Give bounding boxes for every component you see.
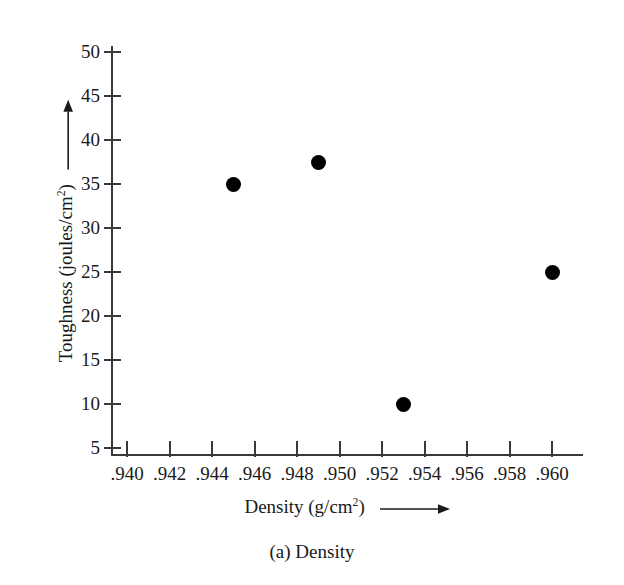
x-axis-tick [169, 441, 171, 457]
x-axis-tick [254, 441, 256, 457]
x-axis-tick [424, 441, 426, 457]
y-axis-line [111, 46, 113, 456]
y-axis-title-superscript: 2 [55, 190, 68, 196]
data-point [396, 397, 411, 412]
x-axis-title: Density (g/cm2) [112, 495, 582, 521]
y-axis-tick [104, 51, 121, 53]
x-axis-tick [126, 441, 128, 457]
x-axis-tick [296, 441, 298, 457]
x-axis-tick [339, 441, 341, 457]
arrow-right-icon [56, 99, 80, 169]
y-axis-tick [104, 95, 121, 97]
y-axis-tick [104, 403, 121, 405]
y-axis-tick [104, 447, 121, 449]
data-point [545, 265, 560, 280]
x-axis-tick [211, 441, 213, 457]
x-axis-tick [509, 441, 511, 457]
x-axis-title-suffix: ) [359, 496, 365, 517]
x-axis-tick [381, 441, 383, 457]
y-axis-tick [104, 315, 121, 317]
x-axis-tick [466, 441, 468, 457]
x-axis-tick [551, 441, 553, 457]
x-axis-line [111, 454, 583, 456]
x-axis-title-text: Density (g/cm [244, 496, 352, 517]
data-point [226, 177, 241, 192]
arrow-right-icon [380, 497, 450, 521]
y-axis-title-text: Toughness (joules/cm [55, 196, 76, 362]
y-axis-title: Toughness (joules/cm2) [54, 36, 80, 426]
y-axis-tick [104, 183, 121, 185]
y-axis-tick-label: 5 [60, 438, 100, 457]
y-axis-tick [104, 139, 121, 141]
y-axis-title-suffix: ) [55, 184, 76, 190]
y-axis-tick [104, 271, 121, 273]
y-axis-tick [104, 227, 121, 229]
figure-caption: (a) Density [0, 541, 624, 563]
data-point [311, 155, 326, 170]
x-axis-tick-label: .960 [522, 463, 582, 485]
scatter-plot-figure: 5101520253035404550 .940.942.944.946.948… [0, 0, 624, 585]
y-axis-tick [104, 359, 121, 361]
